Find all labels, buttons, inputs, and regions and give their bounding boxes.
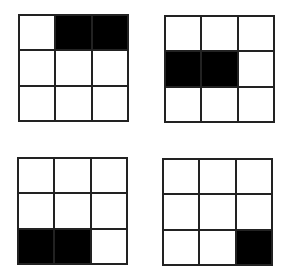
empty-cell-r2-c3	[236, 194, 272, 229]
empty-cell-r1-c1	[165, 16, 201, 51]
empty-cell-r1-c1	[18, 158, 54, 193]
empty-cell-r2-c3	[92, 50, 128, 85]
filled-cell-r1-c2	[55, 15, 91, 50]
empty-cell-r1-c3	[91, 158, 127, 193]
filled-cell-r3-c2	[54, 229, 90, 264]
empty-cell-r3-c1	[19, 86, 55, 121]
empty-cell-r2-c1	[18, 193, 54, 228]
empty-cell-r1-c1	[19, 15, 55, 50]
grid-bottom-left	[17, 157, 128, 265]
empty-cell-r1-c3	[238, 16, 274, 51]
grid-top-left	[18, 14, 129, 122]
empty-cell-r3-c3	[92, 86, 128, 121]
empty-cell-r3-c2	[201, 87, 237, 122]
empty-cell-r2-c3	[91, 193, 127, 228]
grid-bottom-right	[162, 158, 273, 266]
empty-cell-r2-c3	[238, 51, 274, 86]
filled-cell-r2-c2	[201, 51, 237, 86]
empty-cell-r1-c2	[201, 16, 237, 51]
empty-cell-r3-c2	[55, 86, 91, 121]
filled-cell-r2-c1	[165, 51, 201, 86]
grid-top-right	[164, 15, 275, 123]
empty-cell-r2-c2	[55, 50, 91, 85]
filled-cell-r3-c3	[236, 230, 272, 265]
empty-cell-r3-c3	[91, 229, 127, 264]
empty-cell-r1-c1	[163, 159, 199, 194]
empty-cell-r3-c1	[165, 87, 201, 122]
filled-cell-r3-c1	[18, 229, 54, 264]
empty-cell-r2-c2	[54, 193, 90, 228]
empty-cell-r3-c2	[199, 230, 235, 265]
empty-cell-r2-c1	[163, 194, 199, 229]
empty-cell-r2-c1	[19, 50, 55, 85]
empty-cell-r3-c1	[163, 230, 199, 265]
empty-cell-r1-c3	[236, 159, 272, 194]
empty-cell-r1-c2	[54, 158, 90, 193]
filled-cell-r1-c3	[92, 15, 128, 50]
empty-cell-r1-c2	[199, 159, 235, 194]
empty-cell-r3-c3	[238, 87, 274, 122]
empty-cell-r2-c2	[199, 194, 235, 229]
